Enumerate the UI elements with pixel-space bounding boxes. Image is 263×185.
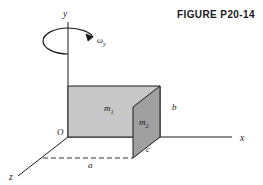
z-axis-label: z bbox=[8, 172, 13, 182]
m1-subscript: 1 bbox=[111, 108, 114, 115]
dimension-label-c: c bbox=[146, 144, 150, 154]
omega-subscript: y bbox=[102, 40, 106, 47]
figure-container: FIGURE P20-14 y x z O ωy m1 m2 a b c bbox=[0, 0, 263, 185]
origin-label: O bbox=[57, 127, 64, 137]
y-axis-label: y bbox=[62, 9, 68, 19]
angular-velocity-label: ωy bbox=[97, 35, 106, 47]
x-axis-label: x bbox=[239, 133, 245, 143]
diagram-canvas: y x z O ωy m1 m2 a b c bbox=[0, 0, 263, 185]
dimension-label-b: b bbox=[172, 102, 177, 112]
z-axis-line bbox=[18, 137, 68, 176]
dimension-label-a: a bbox=[88, 160, 93, 170]
